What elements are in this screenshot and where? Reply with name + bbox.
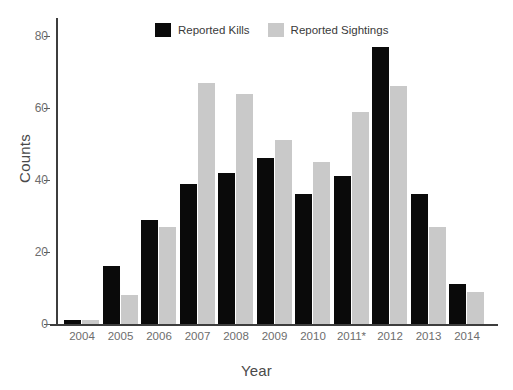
plot-area: 020406080 200420052006200720082009201020… [62, 18, 502, 324]
y-tick-label: 40 [35, 173, 48, 187]
bar-sightings-2009 [275, 140, 292, 324]
bar-sightings-2014 [467, 292, 484, 324]
bar-kills-2011-asterisk [334, 176, 351, 324]
x-axis-line [50, 324, 498, 326]
bar-sightings-2010 [313, 162, 330, 324]
y-tick-60: 60 [56, 108, 57, 109]
bar-group-2005 [103, 18, 139, 324]
y-tick-label: 80 [35, 29, 48, 43]
y-tick-label: 20 [35, 245, 48, 259]
bar-kills-2004 [64, 320, 81, 324]
bar-kills-2007 [180, 184, 197, 324]
bar-kills-2005 [103, 266, 120, 324]
bar-group-2013 [411, 18, 447, 324]
x-tick-label-2014: 2014 [444, 330, 490, 342]
bar-group-2011-asterisk [334, 18, 370, 324]
y-tick-label: 60 [35, 101, 48, 115]
y-axis-line [56, 18, 58, 324]
bar-kills-2012 [372, 47, 389, 324]
bar-sightings-2006 [159, 227, 176, 324]
bar-group-2010 [295, 18, 331, 324]
bar-kills-2008 [218, 173, 235, 324]
bar-group-2004 [64, 18, 100, 324]
bar-kills-2009 [257, 158, 274, 324]
x-axis-title: Year [0, 362, 513, 379]
bar-sightings-2008 [236, 94, 253, 324]
y-tick-0: 0 [56, 324, 57, 325]
bar-group-2014 [449, 18, 485, 324]
bar-kills-2013 [411, 194, 428, 324]
bar-kills-2006 [141, 220, 158, 324]
bar-group-2012 [372, 18, 408, 324]
y-tick-40: 40 [56, 180, 57, 181]
bar-kills-2014 [449, 284, 466, 324]
bar-sightings-2004 [82, 320, 99, 324]
y-axis-title: Counts [16, 99, 33, 219]
bar-kills-2010 [295, 194, 312, 324]
bar-group-2009 [257, 18, 293, 324]
y-tick-20: 20 [56, 252, 57, 253]
bar-sightings-2013 [429, 227, 446, 324]
y-tick-80: 80 [56, 36, 57, 37]
bar-group-2008 [218, 18, 254, 324]
bar-group-2007 [180, 18, 216, 324]
bar-sightings-2012 [390, 86, 407, 324]
y-tick-label: 0 [41, 317, 48, 331]
bar-group-2006 [141, 18, 177, 324]
bar-chart-figure: Counts Reported Kills Reported Sightings… [0, 0, 513, 390]
bar-sightings-2011-asterisk [352, 112, 369, 324]
bar-sightings-2007 [198, 83, 215, 324]
bar-sightings-2005 [121, 295, 138, 324]
